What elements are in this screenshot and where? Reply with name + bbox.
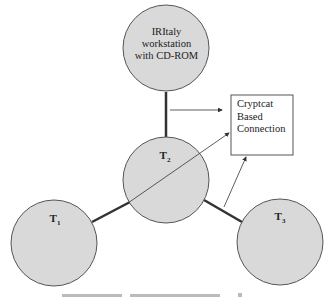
arrow-t2t3-to-box bbox=[224, 157, 246, 207]
box-line-3: Connection bbox=[237, 123, 293, 136]
edge-t1-t2 bbox=[92, 202, 130, 222]
t1-label: T1 bbox=[40, 212, 70, 227]
box-line-2: Based bbox=[237, 111, 293, 124]
t2-label: T2 bbox=[150, 149, 180, 164]
box-line-1: Cryptcat bbox=[237, 98, 293, 111]
workstation-label-line-1: IRItaly bbox=[123, 26, 210, 38]
t3-label: T3 bbox=[265, 210, 295, 225]
workstation-label: IRItaly workstation with CD-ROM bbox=[123, 26, 210, 62]
caption-fragment bbox=[62, 293, 242, 297]
workstation-label-line-3: with CD-ROM bbox=[123, 50, 210, 62]
network-diagram: IRItaly workstation with CD-ROM T2 T1 T3… bbox=[0, 0, 332, 297]
edge-t2-t3 bbox=[204, 200, 242, 222]
connection-box-label: Cryptcat Based Connection bbox=[237, 98, 293, 136]
workstation-label-line-2: workstation bbox=[123, 38, 210, 50]
